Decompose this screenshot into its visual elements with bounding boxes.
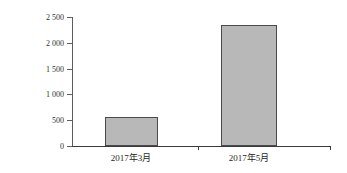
bar-chart-figure: 生物量（g/m2） 0 500 1 000 1 500 2 000 2 500 … [0, 0, 347, 173]
y-tick-mark-0 [67, 146, 72, 147]
x-tick-mark-middle [198, 146, 199, 150]
y-tick-label-1000: 1 000 [24, 91, 64, 99]
y-tick-mark-2500 [67, 17, 72, 18]
y-tick-label-2500: 2 500 [24, 14, 64, 22]
x-tick-mark-right [330, 146, 331, 150]
y-axis-line [72, 17, 73, 147]
x-axis-line [72, 146, 331, 147]
y-tick-mark-1000 [67, 94, 72, 95]
y-tick-label-0: 0 [24, 143, 64, 151]
bar-2017-05[interactable] [221, 25, 277, 146]
bar-2017-03[interactable] [105, 117, 158, 146]
y-tick-label-1500: 1 500 [24, 66, 64, 74]
y-tick-label-2000: 2 000 [24, 40, 64, 48]
y-tick-mark-2000 [67, 43, 72, 44]
y-tick-mark-500 [67, 120, 72, 121]
y-tick-label-500: 500 [24, 117, 64, 125]
x-tick-label-0: 2017年3月 [86, 152, 176, 164]
y-tick-mark-1500 [67, 69, 72, 70]
x-tick-label-1: 2017年5月 [204, 152, 294, 164]
